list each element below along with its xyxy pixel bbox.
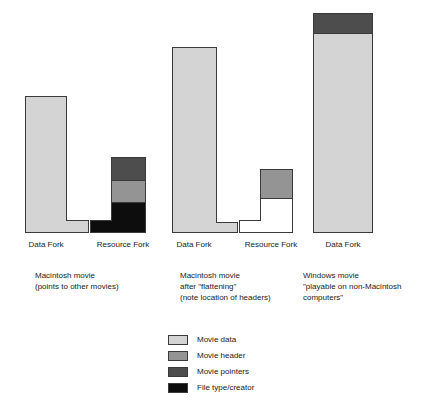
data-fork-1-label: Data Fork (10, 240, 82, 250)
legend: Movie data Movie header Movie pointers F… (168, 334, 308, 398)
caption-line: Macintosh movie (35, 270, 119, 281)
legend-row: Movie data (168, 334, 308, 348)
resource-fork-1-foot (90, 220, 112, 233)
caption-line: after "flattening" (180, 281, 271, 292)
caption-line: (points to other movies) (35, 281, 119, 292)
legend-label-movie-data: Movie data (197, 334, 236, 346)
legend-swatch-file-type-creator (168, 383, 188, 393)
caption-macintosh-movie: Macintosh movie (points to other movies) (35, 270, 119, 292)
caption-windows-movie: Windows movie "playable on non-Macintosh… (303, 270, 401, 303)
resource-fork-2-foot (239, 220, 261, 233)
legend-swatch-movie-data (168, 335, 188, 345)
legend-label-movie-pointers: Movie pointers (197, 366, 249, 378)
resource-fork-2-joint (260, 221, 262, 232)
data-fork-1-column (25, 96, 67, 233)
caption-line: Windows movie (303, 270, 401, 281)
data-fork-3-label: Data Fork (307, 240, 379, 250)
resource-fork-2-label: Resource Fork (232, 240, 310, 250)
data-fork-1-joint (66, 221, 68, 232)
legend-row: Movie pointers (168, 366, 308, 380)
caption-line: (note location of headers) (180, 292, 271, 303)
caption-macintosh-movie-flattened: Macintosh movie after "flattening" (note… (180, 270, 271, 303)
data-fork-2-joint (216, 223, 218, 232)
data-fork-1-foot (66, 220, 89, 233)
resource-fork-1-segment-movie-header (111, 180, 146, 203)
data-fork-3-segment-movie-pointers (313, 13, 373, 34)
legend-row: File type/creator (168, 382, 308, 396)
resource-fork-1-joint (110, 221, 113, 232)
legend-label-movie-header: Movie header (197, 350, 245, 362)
caption-line: computers" (303, 292, 401, 303)
resource-fork-2-segment-movie-header (260, 169, 293, 199)
legend-label-file-type-creator: File type/creator (197, 382, 254, 394)
resource-fork-1-label: Resource Fork (84, 240, 162, 250)
legend-row: Movie header (168, 350, 308, 364)
data-fork-3-segment-movie-data (313, 33, 373, 233)
diagram-canvas: Data Fork Resource Fork Macintosh movie … (0, 0, 426, 412)
resource-fork-2-segment-empty (260, 198, 293, 233)
resource-fork-1-segment-movie-pointers (111, 157, 146, 181)
data-fork-2-foot (216, 222, 238, 233)
data-fork-2-label: Data Fork (158, 240, 230, 250)
caption-line: Macintosh movie (180, 270, 271, 281)
legend-swatch-movie-pointers (168, 367, 188, 377)
resource-fork-1-segment-file-type-creator (111, 202, 146, 233)
caption-line: "playable on non-Macintosh (303, 281, 401, 292)
legend-swatch-movie-header (168, 351, 188, 361)
data-fork-2-column (172, 47, 217, 233)
